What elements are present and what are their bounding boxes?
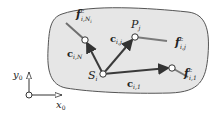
label-y0: y0	[12, 69, 23, 81]
node-contact-N	[82, 37, 88, 43]
node-P	[132, 34, 138, 40]
contact-diagram: fci,Ni ci,N Pj ci,j fci,j Si ci,1 fci,1 …	[0, 0, 218, 116]
node-contact-1	[169, 65, 175, 71]
node-S	[100, 71, 106, 77]
frame-origin	[26, 92, 32, 98]
label-x0: x0	[56, 99, 66, 111]
